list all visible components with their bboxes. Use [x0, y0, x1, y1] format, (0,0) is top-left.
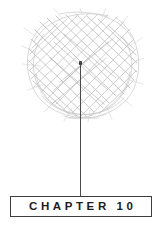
connector-stem-line — [80, 62, 81, 196]
chapter-title-box: CHAPTER 10 — [10, 196, 152, 217]
chapter-title-label: CHAPTER 10 — [25, 201, 136, 213]
chapter-divider-page: CHAPTER 10 — [0, 0, 163, 230]
scribble-ball-illustration — [20, 8, 144, 122]
